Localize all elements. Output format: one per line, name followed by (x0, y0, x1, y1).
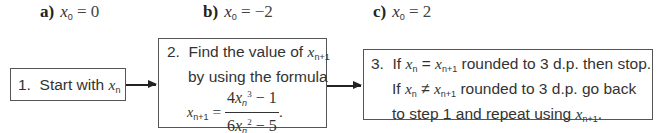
step2-formula: xn+1 = 4xn3 − 16xn2 − 5. (167, 86, 326, 133)
part-label: b) (203, 2, 218, 21)
part-b: b)x0 = −2 (203, 2, 273, 22)
step2-line1: 2. Find the value of xn+1 (167, 42, 326, 67)
step3-box: 3. If xn = xn+1 rounded to 3 d.p. then s… (363, 49, 653, 120)
arrow-1-to-2 (126, 84, 156, 86)
part-a: a)x0 = 0 (40, 2, 99, 22)
step1-box: 1. Start with xn (10, 68, 126, 101)
step3-line3: to step 1 and repeat using xn+1. (371, 104, 652, 129)
step3-line2: If xn ≠ xn+1 rounded to 3 d.p. go back (371, 79, 652, 104)
step1-text: 1. Start with xn (18, 76, 120, 93)
fraction: 4xn3 − 16xn2 − 5 (225, 86, 279, 133)
part-c: c)x0 = 2 (373, 2, 431, 22)
step3-line1: 3. If xn = xn+1 rounded to 3 d.p. then s… (371, 54, 652, 79)
arrow-2-to-3 (327, 85, 361, 87)
step2-box: 2. Find the value of xn+1 by using the f… (158, 38, 327, 128)
part-label: c) (373, 2, 386, 21)
part-label: a) (40, 2, 54, 21)
step2-line2: by using the formula (167, 67, 326, 87)
